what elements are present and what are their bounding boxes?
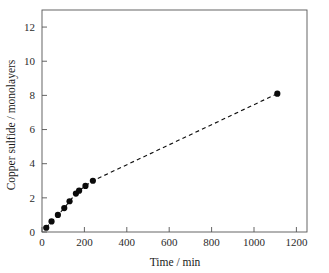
y-tick-label: 4 [30, 157, 36, 169]
x-tick-label: 600 [161, 236, 178, 248]
x-axis-ticks: 020040060080010001200 [39, 227, 308, 248]
y-axis-label: Copper sulfide / monolayers [5, 59, 18, 190]
y-axis-ticks: 024681012 [24, 21, 47, 238]
data-point [48, 218, 54, 224]
data-point [43, 225, 49, 231]
data-point [76, 188, 82, 194]
y-tick-label: 8 [30, 89, 36, 101]
plot-frame [42, 10, 307, 232]
data-point [55, 212, 61, 218]
y-tick-label: 0 [30, 226, 36, 238]
data-series-group [43, 91, 280, 231]
x-tick-label: 800 [203, 236, 220, 248]
x-tick-label: 1000 [243, 236, 266, 248]
x-tick-label: 0 [39, 236, 45, 248]
scatter-plot: 020040060080010001200 024681012 Time / m… [0, 0, 329, 273]
data-point [66, 198, 72, 204]
y-tick-label: 2 [30, 192, 36, 204]
trend-line [46, 94, 277, 228]
y-tick-label: 6 [30, 123, 36, 135]
data-point [90, 178, 96, 184]
x-tick-label: 1200 [285, 236, 308, 248]
x-axis-label: Time / min [150, 256, 201, 268]
y-tick-label: 12 [24, 21, 35, 33]
chart-container: 020040060080010001200 024681012 Time / m… [0, 0, 329, 273]
x-tick-label: 200 [76, 236, 93, 248]
y-tick-label: 10 [24, 55, 36, 67]
data-point [274, 91, 280, 97]
data-point [82, 183, 88, 189]
axes-frame [42, 10, 307, 232]
data-point [61, 205, 67, 211]
x-tick-label: 400 [119, 236, 136, 248]
